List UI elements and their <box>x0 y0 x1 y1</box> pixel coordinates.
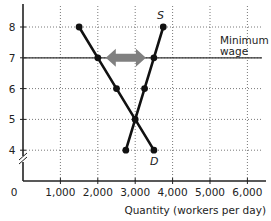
y-tick-label: 6 <box>9 83 16 95</box>
x-tick-label: 5,000 <box>195 186 225 198</box>
data-point <box>113 85 120 92</box>
x-tick-label: 6,000 <box>232 186 262 198</box>
data-point <box>151 147 158 154</box>
minimum-wage-label: wage <box>220 45 248 57</box>
unemployment-arrow <box>106 49 146 67</box>
data-point <box>94 54 101 61</box>
demand-label: D <box>150 155 158 168</box>
y-tick-label: 8 <box>9 21 16 33</box>
y-tick-label: 4 <box>9 144 16 156</box>
y-tick-label: 7 <box>9 52 16 64</box>
x-tick-label: 3,000 <box>120 186 150 198</box>
x-tick-label: 1,000 <box>45 186 75 198</box>
data-point <box>160 24 167 31</box>
data-point <box>76 24 83 31</box>
data-point <box>132 116 139 123</box>
supply-label: S <box>157 9 164 22</box>
x-tick-label: 4,000 <box>158 186 188 198</box>
x-tick-label: 0 <box>11 186 18 198</box>
chart: 01,0002,0003,0004,0005,0006,00045678Quan… <box>0 0 271 221</box>
data-point <box>141 85 148 92</box>
x-tick-label: 2,000 <box>83 186 113 198</box>
data-point <box>122 147 129 154</box>
minimum-wage-line: Minimumwage <box>23 34 269 58</box>
double-arrow-icon <box>106 49 146 67</box>
data-point <box>151 54 158 61</box>
x-axis-label: Quantity (workers per day) <box>124 204 266 216</box>
y-tick-label: 5 <box>9 113 16 125</box>
